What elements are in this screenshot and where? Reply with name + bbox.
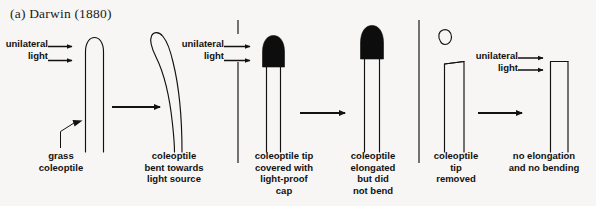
- caption-coleoptile-bent: coleoptile bent towards light source: [130, 150, 218, 185]
- light-arrows-panel-3: [518, 58, 543, 70]
- darwin-1880-phototropism-figure: (a) Darwin (1880): [0, 0, 596, 206]
- coleoptile-capped-tip: [263, 36, 285, 153]
- caption-coleoptile-capped: coleoptile tip covered with light-proof …: [238, 150, 330, 196]
- coleoptile-elongated-capped: [361, 26, 384, 153]
- light-arrows-panel-1: [48, 47, 72, 61]
- coleoptile-no-growth: [551, 62, 569, 153]
- coleoptile-straight-intact: [86, 38, 104, 153]
- caption-tip-removed: coleoptile tip removed: [420, 150, 492, 185]
- caption-grass-coleoptile: grass coleoptile: [24, 150, 98, 173]
- light-arrows-panel-2: [224, 47, 250, 61]
- unilateral-light-label-2: unilateral light: [176, 38, 224, 62]
- grass-coleoptile-pointer: [61, 120, 83, 148]
- unilateral-light-label-1: unilateral light: [0, 38, 48, 62]
- caption-no-elongation: no elongation and no bending: [496, 150, 592, 173]
- unilateral-light-label-3: unilateral light: [470, 50, 518, 74]
- coleoptile-tip-removed: [439, 30, 464, 152]
- caption-coleoptile-elongated: coleoptile elongated but did not bend: [334, 150, 412, 196]
